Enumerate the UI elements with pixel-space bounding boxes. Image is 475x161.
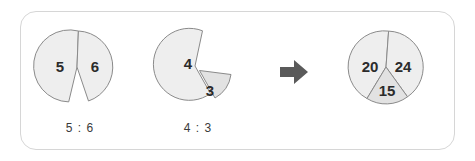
- pie-slice-15-label: 15: [379, 82, 396, 99]
- diagram-stage: 5 6 5 : 6 4 3 4 : 3 20 24 1: [0, 0, 475, 161]
- pie-slice-4: [153, 28, 210, 100]
- pie-slice-20-label: 20: [362, 58, 379, 75]
- ratio-pie-5-6: 5 6 5 : 6: [34, 30, 113, 135]
- ratio-caption-4-3: 4 : 3: [184, 121, 212, 135]
- ratio-pie-4-3: 4 3 4 : 3: [153, 28, 231, 135]
- result-pie-20-24-15: 20 24 15: [348, 31, 423, 104]
- ratio-caption-5-6: 5 : 6: [66, 121, 94, 135]
- figures-svg: 5 6 5 : 6 4 3 4 : 3 20 24 1: [0, 0, 475, 161]
- pie-slice-3-label: 3: [206, 82, 214, 99]
- pie-slice-6-label: 6: [91, 58, 99, 75]
- pie-slice-5-label: 5: [56, 58, 64, 75]
- pie-slice-24-label: 24: [395, 58, 412, 75]
- arrow-right-icon: [280, 60, 308, 84]
- pie-slice-4-label: 4: [184, 55, 193, 72]
